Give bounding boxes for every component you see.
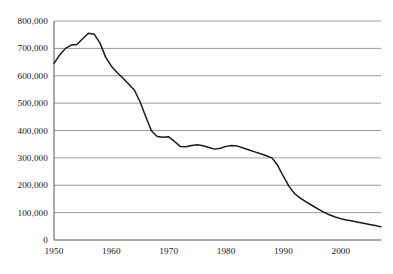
chart-container: 0100,000200,000300,000400,000500,000600,… bbox=[0, 0, 393, 274]
gridlines-group bbox=[54, 21, 381, 240]
chart-plot-svg bbox=[0, 0, 393, 274]
